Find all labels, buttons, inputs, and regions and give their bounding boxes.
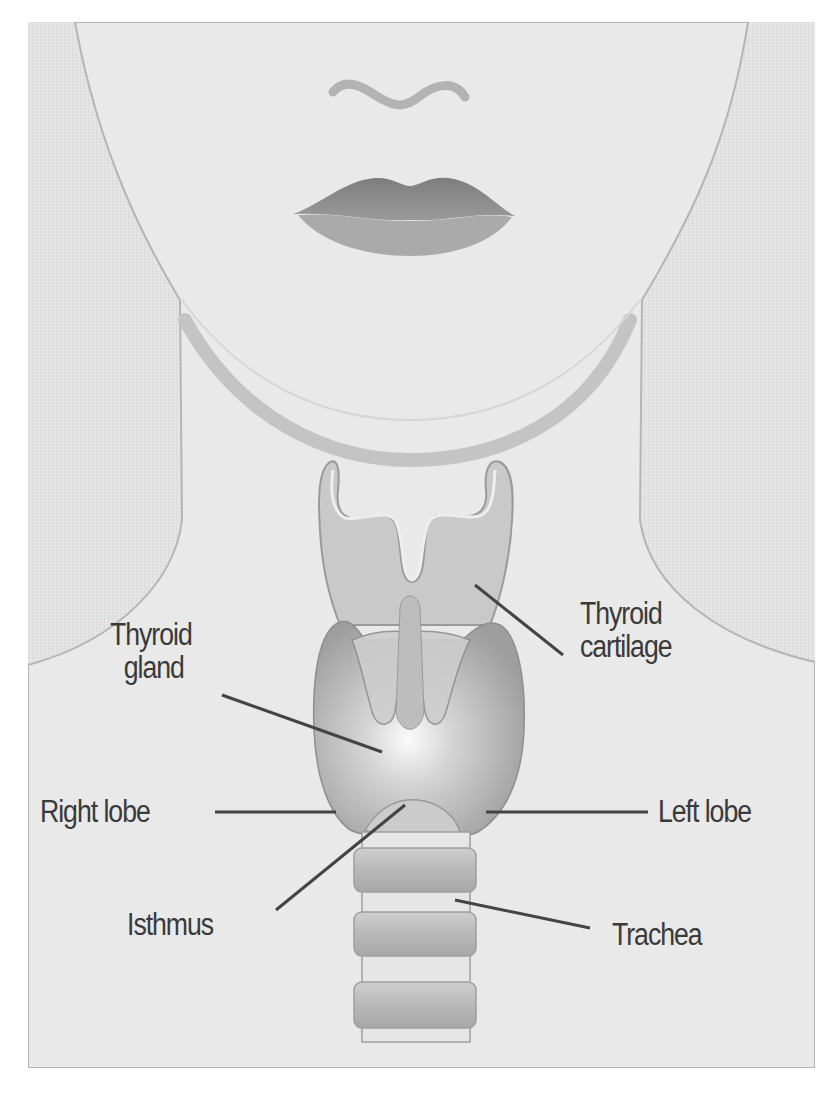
label-thyroid-gland-line2: gland (110, 651, 192, 684)
label-thyroid-cartilage-line2: cartilage (580, 630, 671, 663)
label-thyroid-cartilage-line1: Thyroid (580, 597, 671, 630)
thyroid-illustration (0, 0, 826, 1094)
label-left-lobe: Left lobe (658, 795, 751, 828)
trachea-ring-1 (354, 848, 476, 892)
label-right-lobe: Right lobe (40, 795, 150, 828)
label-isthmus: Isthmus (127, 908, 213, 941)
label-thyroid-gland: Thyroid gland (110, 618, 192, 684)
label-thyroid-cartilage: Thyroid cartilage (580, 597, 671, 663)
epiglottis (396, 596, 424, 729)
trachea-ring-2 (354, 912, 476, 956)
trachea-ring-3 (354, 982, 476, 1028)
label-trachea: Trachea (612, 918, 702, 951)
label-thyroid-gland-line1: Thyroid (110, 618, 192, 651)
